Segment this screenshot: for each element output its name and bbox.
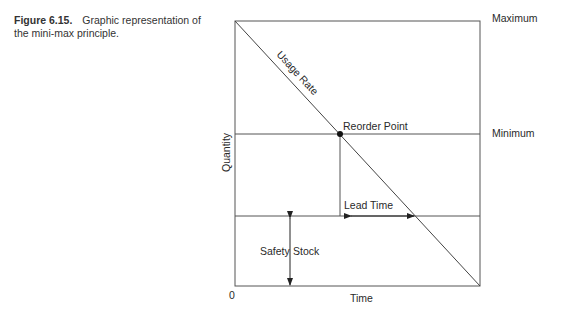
safety-stock-label-left: Safety [260, 245, 290, 257]
origin-label: 0 [229, 289, 235, 301]
lead-time-label: Lead Time [344, 199, 393, 211]
mini-max-diagram: Usage Rate Quantity [0, 0, 563, 314]
reorder-point-label: Reorder Point [343, 120, 408, 132]
x-axis-label: Time [350, 292, 373, 304]
safety-stock-label-right: Stock [293, 245, 319, 257]
y-axis-label: Quantity [220, 132, 232, 172]
minimum-label: Minimum [492, 127, 535, 139]
maximum-label: Maximum [492, 12, 538, 24]
usage-rate-label: Usage Rate [275, 48, 322, 97]
